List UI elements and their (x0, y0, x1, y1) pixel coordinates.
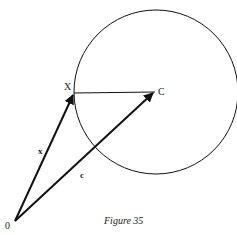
vector-label-x: x (38, 146, 43, 156)
figure-caption: Figure 35 (103, 215, 143, 226)
circle (74, 10, 237, 174)
vector-circle-diagram: X C 0 x c Figure 35 (0, 0, 237, 235)
point-label-x: X (64, 81, 72, 92)
point-label-c: C (158, 86, 165, 97)
vector-c-arrow (15, 93, 153, 221)
vector-x-arrow (15, 95, 73, 221)
point-label-origin: 0 (5, 220, 10, 231)
radius-line-xc (74, 92, 155, 93)
vector-label-c: c (80, 170, 84, 180)
